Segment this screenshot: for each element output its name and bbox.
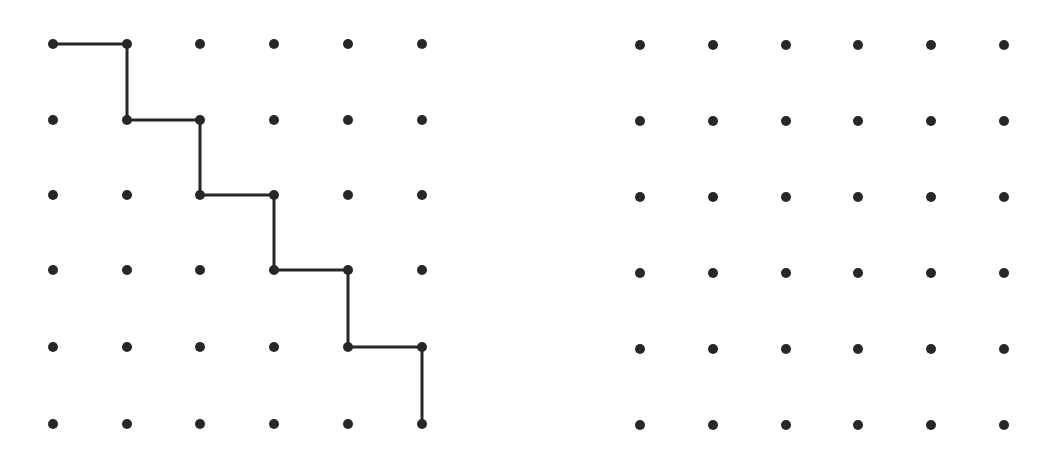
grid-dot xyxy=(269,190,279,200)
grid-dot xyxy=(122,190,132,200)
grid-dot xyxy=(708,420,718,430)
grid-dot xyxy=(269,342,279,352)
grid-dot xyxy=(417,190,427,200)
grid-dot xyxy=(999,420,1009,430)
grid-dot xyxy=(781,40,791,50)
grid-dot xyxy=(48,39,58,49)
grid-dot xyxy=(48,190,58,200)
grid-dot xyxy=(195,115,205,125)
grid-dot xyxy=(269,419,279,429)
grid-dot xyxy=(343,265,353,275)
grid-dot xyxy=(122,39,132,49)
left-dot-grid xyxy=(48,39,427,429)
grid-dot xyxy=(635,192,645,202)
dot-grid-figure xyxy=(0,0,1054,458)
grid-dot xyxy=(999,268,1009,278)
grid-dot xyxy=(781,116,791,126)
grid-dot xyxy=(417,265,427,275)
staircase-path xyxy=(53,44,422,424)
grid-dot xyxy=(781,268,791,278)
right-dot-grid xyxy=(635,40,1009,430)
grid-dot xyxy=(926,192,936,202)
grid-dot xyxy=(417,419,427,429)
grid-dot xyxy=(48,419,58,429)
grid-dot xyxy=(343,115,353,125)
grid-dot xyxy=(635,420,645,430)
grid-dot xyxy=(708,268,718,278)
grid-dot xyxy=(999,192,1009,202)
grid-dot xyxy=(195,39,205,49)
grid-dot xyxy=(853,268,863,278)
grid-dot xyxy=(122,265,132,275)
grid-dot xyxy=(781,344,791,354)
grid-dot xyxy=(48,115,58,125)
grid-dot xyxy=(926,344,936,354)
grid-dot xyxy=(343,342,353,352)
grid-dot xyxy=(853,40,863,50)
grid-dot xyxy=(926,268,936,278)
grid-dot xyxy=(635,344,645,354)
grid-dot xyxy=(269,39,279,49)
grid-dot xyxy=(122,342,132,352)
grid-dot xyxy=(195,342,205,352)
grid-dot xyxy=(122,115,132,125)
grid-dot xyxy=(853,344,863,354)
grid-dot xyxy=(417,39,427,49)
grid-dot xyxy=(343,419,353,429)
grid-dot xyxy=(926,40,936,50)
grid-dot xyxy=(999,116,1009,126)
grid-dot xyxy=(195,265,205,275)
grid-dot xyxy=(269,115,279,125)
grid-dot xyxy=(999,344,1009,354)
grid-dot xyxy=(926,420,936,430)
grid-dot xyxy=(635,116,645,126)
grid-dot xyxy=(635,268,645,278)
grid-dot xyxy=(417,342,427,352)
grid-dot xyxy=(343,190,353,200)
grid-dot xyxy=(708,192,718,202)
grid-dot xyxy=(999,40,1009,50)
grid-dot xyxy=(195,190,205,200)
grid-dot xyxy=(48,265,58,275)
grid-dot xyxy=(853,192,863,202)
grid-dot xyxy=(343,39,353,49)
grid-dot xyxy=(708,40,718,50)
grid-dot xyxy=(417,115,427,125)
grid-dot xyxy=(708,344,718,354)
grid-dot xyxy=(926,116,936,126)
grid-dot xyxy=(853,116,863,126)
grid-dot xyxy=(635,40,645,50)
grid-dot xyxy=(122,419,132,429)
grid-dot xyxy=(708,116,718,126)
grid-dot xyxy=(781,420,791,430)
grid-dot xyxy=(48,342,58,352)
grid-dot xyxy=(781,192,791,202)
grid-dot xyxy=(195,419,205,429)
grid-dot xyxy=(269,265,279,275)
grid-dot xyxy=(853,420,863,430)
